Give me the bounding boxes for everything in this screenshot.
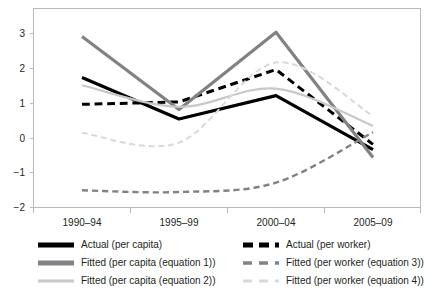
x-axis-ticks [34, 208, 421, 213]
legend-label: Actual (per worker) [286, 239, 370, 251]
series-line [82, 132, 373, 192]
series-line [82, 85, 373, 126]
legend-swatch-dashed-gray [243, 257, 279, 269]
legend-label: Fitted (per worker (equation 3)) [286, 257, 424, 269]
y-tick-label: −2 [14, 202, 26, 213]
legend-item-actual-per-worker: Actual (per worker) [243, 236, 433, 253]
legend-item-fitted-per-worker-eq4: Fitted (per worker (equation 4)) [243, 272, 433, 289]
series-line [82, 78, 373, 150]
legend-item-fitted-per-worker-eq3: Fitted (per worker (equation 3)) [243, 254, 433, 271]
legend-label: Fitted (per worker (equation 4)) [286, 275, 424, 287]
y-tick-label: 3 [19, 28, 25, 39]
chart-figure: 3 2 1 0 −1 −2 1990–94 1995–99 2000–04 20… [0, 0, 433, 296]
legend-item-fitted-per-capita-eq2: Fitted (per capita (equation 2)) [38, 272, 243, 289]
legend-label: Actual (per capita) [81, 239, 162, 251]
y-tick-label: 1 [19, 98, 25, 109]
y-axis-labels: 3 2 1 0 −1 −2 [14, 28, 26, 213]
x-tick-label: 2005–09 [354, 217, 393, 228]
x-tick-label: 2000–04 [257, 217, 296, 228]
series-layer [82, 32, 373, 192]
y-tick-label: 0 [19, 133, 25, 144]
legend-swatch-dashed-lightgray [243, 275, 279, 287]
legend-label: Fitted (per capita (equation 2)) [81, 275, 216, 287]
legend-swatch-solid-lightgray [38, 275, 74, 287]
legend-swatch-solid-black-thick [38, 239, 74, 251]
x-tick-label: 1995–99 [160, 217, 199, 228]
legend-item-actual-per-capita: Actual (per capita) [38, 236, 243, 253]
legend-swatch-solid-gray-thick [38, 257, 74, 269]
legend-swatch-dashed-black-thick [243, 239, 279, 251]
y-tick-label: −1 [14, 167, 26, 178]
legend-label: Fitted (per capita (equation 1)) [81, 257, 216, 269]
x-tick-label: 1990–94 [63, 217, 102, 228]
chart-legend: Actual (per capita) Fitted (per capita (… [38, 236, 430, 292]
x-axis-labels: 1990–94 1995–99 2000–04 2005–09 [63, 217, 393, 228]
y-tick-label: 2 [19, 63, 25, 74]
y-axis-ticks [30, 34, 34, 208]
legend-item-fitted-per-capita-eq1: Fitted (per capita (equation 1)) [38, 254, 243, 271]
